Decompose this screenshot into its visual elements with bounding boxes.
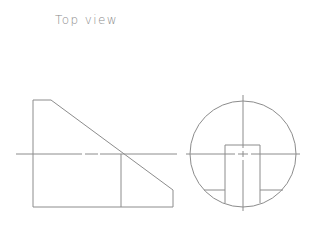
centerline-right	[186, 95, 300, 211]
technical-drawing	[0, 0, 316, 243]
